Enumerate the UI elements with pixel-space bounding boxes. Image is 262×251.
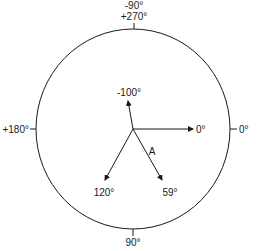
vector-59deg <box>133 129 162 180</box>
vector-label-minus100deg: -100° <box>117 87 141 98</box>
label-bottom-90: 90° <box>125 237 140 248</box>
vector-label-59deg: 59° <box>162 187 177 198</box>
label-top-plus270: +270° <box>121 11 148 22</box>
annotation-a: A <box>149 146 156 157</box>
vector-label-0deg: 0° <box>196 124 206 135</box>
label-right-0: 0° <box>239 124 249 135</box>
vector-minus100deg <box>128 101 133 129</box>
vector-120deg <box>105 129 133 180</box>
phasor-diagram: -90° +270° +180° 0° 90° 0° -100° 120° 59… <box>0 0 262 251</box>
label-top-minus90: -90° <box>125 0 143 11</box>
label-left-180: +180° <box>2 124 29 135</box>
vector-label-120deg: 120° <box>94 187 115 198</box>
